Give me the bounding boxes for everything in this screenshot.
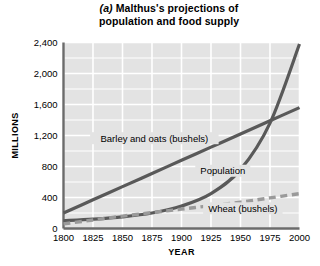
y-tick-label: 1,200 bbox=[34, 130, 58, 141]
series-label: Wheat (bushels) bbox=[208, 203, 277, 214]
x-tick-label: 1825 bbox=[82, 232, 103, 243]
y-tick-label: 1,600 bbox=[34, 99, 58, 110]
x-tick-label: 1800 bbox=[53, 232, 74, 243]
y-tick-label: 800 bbox=[42, 161, 58, 172]
series-label: Barley and oats (bushels) bbox=[100, 133, 208, 144]
x-tick-label: 1900 bbox=[171, 232, 192, 243]
x-tick-label: 1925 bbox=[200, 232, 221, 243]
chart-canvas: 04008001,2001,6002,0002,400 180018251850… bbox=[0, 0, 320, 266]
y-axis-title: MILLIONS bbox=[10, 112, 20, 158]
y-tick-label: 2,000 bbox=[34, 68, 58, 79]
figure-panel: (a)Malthus's projections of population a… bbox=[0, 0, 320, 266]
x-tick-label: 1975 bbox=[259, 232, 280, 243]
x-axis-title: YEAR bbox=[168, 247, 195, 257]
y-tick-label: 400 bbox=[42, 192, 58, 203]
x-tick-label: 1850 bbox=[112, 232, 133, 243]
y-axis-tick-labels: 04008001,2001,6002,0002,400 bbox=[34, 37, 58, 234]
series-label: Population bbox=[200, 165, 245, 176]
x-tick-label: 1875 bbox=[141, 232, 162, 243]
x-tick-label: 1950 bbox=[230, 232, 251, 243]
x-tick-label: 2000 bbox=[289, 232, 310, 243]
y-tick-label: 2,400 bbox=[34, 37, 58, 48]
x-axis-tick-labels: 180018251850187519001925195019752000 bbox=[53, 232, 310, 243]
